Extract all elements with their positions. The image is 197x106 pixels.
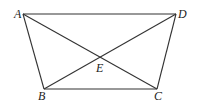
label-C: C (154, 89, 163, 103)
label-E: E (95, 61, 104, 75)
diagonal-AC (23, 14, 157, 89)
segment-DC (157, 14, 176, 89)
label-B: B (38, 89, 46, 103)
label-A: A (13, 7, 22, 21)
segment-AB (23, 14, 44, 89)
label-D: D (177, 7, 187, 21)
diagonal-BD (44, 14, 176, 89)
trapezoid-diagram: A D E B C (0, 0, 197, 106)
